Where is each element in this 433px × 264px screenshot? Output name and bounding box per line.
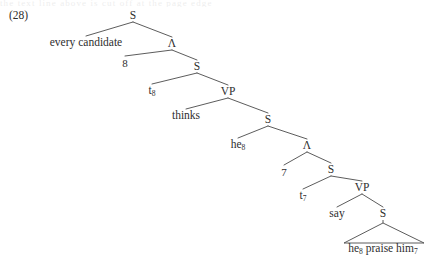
tree-node-s-root: S	[130, 10, 136, 22]
branch-s-1-to-trace-8	[152, 73, 197, 84]
branch-vp-1-to-s-2	[228, 98, 268, 113]
tree-node-verb-say: say	[329, 208, 344, 220]
tree-node-lambda-8: Λ	[168, 38, 176, 50]
tree-node-vp-2: VP	[355, 182, 370, 194]
tree-node-s-4: S	[380, 208, 386, 220]
branch-lines	[86, 22, 383, 207]
branch-vp-1-to-verb-thinks	[186, 98, 228, 109]
branch-s-root-to-np-subject	[86, 22, 133, 36]
branch-lambda-8-to-index-8	[125, 50, 172, 56]
tree-node-vp-1: VP	[221, 86, 236, 98]
tree-node-verb-thinks: thinks	[172, 110, 200, 122]
branch-s-2-to-pron-he8	[238, 126, 268, 138]
branch-lambda-7-to-index-7	[284, 152, 307, 165]
tree-node-s-1: S	[194, 61, 200, 73]
tree-node-np-subject: every candidate	[50, 37, 122, 49]
branch-lambda-7-to-s-3	[307, 152, 331, 163]
tree-node-pron-he8: he8	[231, 139, 246, 151]
tree-node-trace-7: t7	[300, 190, 307, 202]
branch-lambda-8-to-s-1	[172, 50, 197, 60]
tree-node-index-7: 7	[281, 167, 287, 178]
branch-s-root-to-lambda-8	[133, 22, 172, 37]
tree-node-trace-8: t8	[149, 85, 156, 97]
tree-node-index-8: 8	[122, 58, 128, 69]
branch-s-3-to-trace-7	[303, 176, 331, 189]
figure-canvas: the text line above is cut off at the pa…	[0, 0, 433, 264]
branch-vp-2-to-s-4	[362, 194, 383, 207]
triangle-outline	[344, 223, 424, 243]
constituent-triangle	[344, 220, 424, 243]
branch-s-3-to-vp-2	[331, 176, 362, 181]
branch-s-1-to-vp-1	[197, 73, 228, 85]
tree-node-s-2: S	[265, 114, 271, 126]
branch-vp-2-to-verb-say	[337, 194, 362, 207]
tree-node-lambda-7: Λ	[303, 140, 311, 152]
tree-node-clause-bottom: he8 praise him7	[348, 243, 418, 255]
branch-s-2-to-lambda-7	[268, 126, 307, 139]
tree-node-s-3: S	[328, 164, 334, 176]
